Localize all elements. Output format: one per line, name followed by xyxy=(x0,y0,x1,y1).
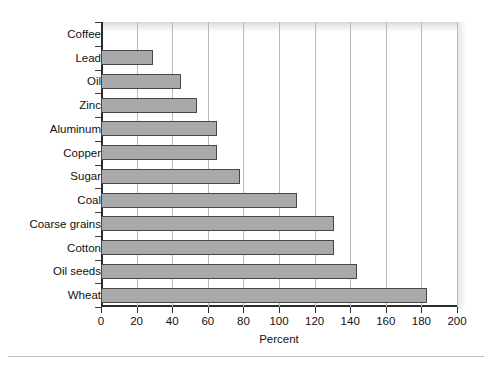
x-tick-label-20: 20 xyxy=(117,315,157,328)
y-label-sugar: Sugar xyxy=(5,170,101,182)
bar-row xyxy=(101,264,357,279)
bar-copper xyxy=(101,145,217,160)
gridline-200 xyxy=(457,22,458,307)
bar-coarse-grains xyxy=(101,216,334,231)
y-label-lead: Lead xyxy=(5,52,101,64)
y-label-cotton: Cotton xyxy=(5,242,101,254)
y-label-oil-seeds: Oil seeds xyxy=(5,265,101,277)
x-tick-180 xyxy=(421,307,422,313)
bar-row xyxy=(101,121,217,136)
bar-row xyxy=(101,240,334,255)
x-tick-120 xyxy=(315,307,316,313)
y-label-copper: Copper xyxy=(5,147,101,159)
x-tick-label-60: 60 xyxy=(188,315,228,328)
bar-row xyxy=(101,193,297,208)
footer-divider xyxy=(8,356,484,357)
y-label-aluminum: Aluminum xyxy=(5,123,101,135)
x-tick-label-40: 40 xyxy=(152,315,192,328)
bar-sugar xyxy=(101,169,240,184)
bar-row xyxy=(101,145,217,160)
bar-wheat xyxy=(101,288,427,303)
y-label-coarse-grains: Coarse grains xyxy=(5,218,101,230)
y-label-zinc: Zinc xyxy=(5,99,101,111)
x-tick-label-120: 120 xyxy=(295,315,335,328)
x-tick-label-160: 160 xyxy=(366,315,406,328)
bar-oil xyxy=(101,74,181,89)
x-tick-100 xyxy=(279,307,280,313)
bar-zinc xyxy=(101,98,197,113)
x-tick-label-140: 140 xyxy=(330,315,370,328)
x-tick-200 xyxy=(457,307,458,313)
x-tick-label-200: 200 xyxy=(437,315,477,328)
y-label-coal: Coal xyxy=(5,194,101,206)
bar-lead xyxy=(101,50,153,65)
bar-aluminum xyxy=(101,121,217,136)
bar-cotton xyxy=(101,240,334,255)
x-tick-140 xyxy=(350,307,351,313)
x-tick-label-0: 0 xyxy=(81,315,121,328)
bar-chart-figure: CoffeeLeadOilZincAluminumCopperSugarCoal… xyxy=(0,0,492,368)
bar-coal xyxy=(101,193,297,208)
bar-row xyxy=(101,216,334,231)
y-axis-labels: CoffeeLeadOilZincAluminumCopperSugarCoal… xyxy=(0,22,101,307)
bar-row xyxy=(101,169,240,184)
x-tick-label-100: 100 xyxy=(259,315,299,328)
x-tick-80 xyxy=(243,307,244,313)
x-tick-160 xyxy=(386,307,387,313)
x-tick-label-180: 180 xyxy=(401,315,441,328)
bar-row xyxy=(101,98,197,113)
bar-row xyxy=(101,50,153,65)
y-label-coffee: Coffee xyxy=(5,28,101,40)
x-axis-title: Percent xyxy=(101,333,457,345)
y-label-oil: Oil xyxy=(5,75,101,87)
x-tick-20 xyxy=(137,307,138,313)
x-tick-label-80: 80 xyxy=(223,315,263,328)
bar-row xyxy=(101,74,181,89)
x-tick-40 xyxy=(172,307,173,313)
plot-right-shading xyxy=(457,22,466,309)
x-tick-60 xyxy=(208,307,209,313)
bar-series xyxy=(101,22,457,307)
x-tick-0 xyxy=(101,307,102,313)
y-label-wheat: Wheat xyxy=(5,289,101,301)
bar-oil-seeds xyxy=(101,264,357,279)
bar-row xyxy=(101,288,427,303)
